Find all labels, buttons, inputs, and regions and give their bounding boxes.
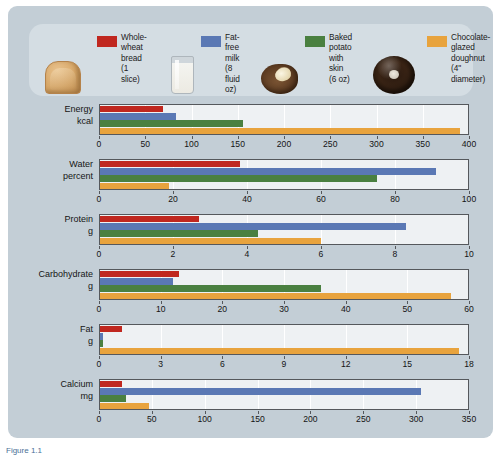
panel-fat: Fat g0369121518 [29,322,473,371]
tick-label: 18 [464,359,474,369]
tick-label: 80 [390,194,400,204]
tick-label: 200 [303,414,317,424]
panel-protein: Protein g0246810 [29,212,473,261]
tick-label: 300 [409,414,423,424]
bar-group [99,325,468,354]
x-axis-ticks-carbohydrate: 0102030405060 [99,301,469,315]
bar-group [99,160,468,189]
legend-label-1: Fat-free milk (8 fluid oz) [225,32,240,94]
tick-label: 350 [462,414,476,424]
legend-label-3: Chocolate-glazed doughnut (4" diameter) [451,32,490,84]
tick-label: 6 [319,249,324,259]
tick-label: 0 [97,249,102,259]
tick-label: 10 [464,249,474,259]
tick-label: 10 [156,304,166,314]
bread-slice-image [45,61,81,94]
tick-label: 100 [198,414,212,424]
y-axis-line [99,379,100,410]
tick-label: 20 [168,194,178,204]
x-axis-ticks-fat: 0369121518 [99,356,469,370]
chocolate-doughnut-image [373,56,415,94]
panel-water: Water percent020406080100 [29,157,473,206]
x-axis-ticks-calcium: 050100150200250300350 [99,411,469,425]
tick-label: 0 [97,194,102,204]
bar-energy-series-0 [99,106,163,112]
tick-label: 60 [464,304,474,314]
bar-carbohydrate-series-1 [99,278,173,284]
tick-label: 0 [97,359,102,369]
bar-water-series-1 [99,168,436,174]
tick-label: 2 [171,249,176,259]
bar-energy-series-1 [99,113,176,119]
y-axis-line [99,269,100,300]
tick-label: 50 [147,414,157,424]
tick-label: 8 [393,249,398,259]
bar-water-series-2 [99,175,377,181]
plot-area-carbohydrate [99,269,469,300]
panel-carbohydrate: Carbohydrate g0102030405060 [29,267,473,316]
tick-label: 60 [316,194,326,204]
panel-label-fat: Fat g [29,324,93,347]
tick-label: 40 [242,194,252,204]
tick-label: 4 [245,249,250,259]
legend-swatch-baked-potato [305,36,325,47]
bar-water-series-0 [99,161,240,167]
tick-label: 250 [323,139,337,149]
y-axis-line [99,324,100,355]
legend-swatch-whole-wheat-bread [97,36,117,47]
figure-container: Whole- wheat bread (1 slice)Fat-free mil… [8,6,493,438]
bar-group [99,380,468,409]
panel-label-calcium: Calcium mg [29,379,93,402]
tick-label: 350 [416,139,430,149]
plot-area-water [99,159,469,190]
panel-calcium: Calcium mg050100150200250300350 [29,377,473,426]
plot-area-fat [99,324,469,355]
tick-label: 150 [250,414,264,424]
bar-calcium-series-3 [99,403,149,409]
y-axis-line [99,104,100,135]
bar-calcium-series-1 [99,388,421,394]
tick-label: 20 [218,304,228,314]
x-axis-ticks-protein: 0246810 [99,246,469,260]
bar-carbohydrate-series-2 [99,285,321,291]
x-axis-ticks-energy: 050100150200250300350400 [99,136,469,150]
panel-label-protein: Protein g [29,214,93,237]
legend-swatch-chocolate-doughnut [427,36,447,47]
tick-label: 0 [97,139,102,149]
bar-protein-series-0 [99,216,199,222]
bar-fat-series-0 [99,326,122,332]
bar-group [99,215,468,244]
tick-label: 100 [462,194,476,204]
tick-label: 30 [279,304,289,314]
plot-area-calcium [99,379,469,410]
panel-label-energy: Energy kcal [29,104,93,127]
tick-label: 0 [97,414,102,424]
bar-calcium-series-0 [99,381,122,387]
bar-fat-series-3 [99,348,459,354]
tick-label: 150 [231,139,245,149]
legend-label-0: Whole- wheat bread (1 slice) [121,32,147,84]
figure-caption: Figure 1.1 [6,446,406,458]
panel-label-water: Water percent [29,159,93,182]
legend-swatch-fat-free-milk [201,36,221,47]
tick-label: 50 [403,304,413,314]
panel-energy: Energy kcal050100150200250300350400 [29,102,473,151]
plot-area-protein [99,214,469,245]
tick-label: 400 [462,139,476,149]
tick-label: 15 [403,359,413,369]
legend-label-2: Baked potato with skin (6 oz) [329,32,352,84]
panel-label-carbohydrate: Carbohydrate g [29,269,93,292]
baked-potato-image [261,64,298,94]
chart-legend: Whole- wheat bread (1 slice)Fat-free mil… [29,24,473,96]
tick-label: 250 [356,414,370,424]
bar-carbohydrate-series-0 [99,271,179,277]
x-axis-ticks-water: 020406080100 [99,191,469,205]
tick-label: 3 [158,359,163,369]
tick-label: 9 [282,359,287,369]
bar-calcium-series-2 [99,395,126,401]
bar-carbohydrate-series-3 [99,293,451,299]
y-axis-line [99,159,100,190]
tick-label: 12 [341,359,351,369]
tick-label: 300 [369,139,383,149]
tick-label: 0 [97,304,102,314]
